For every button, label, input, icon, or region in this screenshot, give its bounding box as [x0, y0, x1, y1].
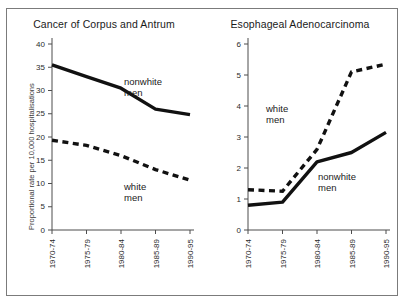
x-tick-label: 1990-95	[186, 238, 195, 268]
series-line-nonwhite-men	[248, 132, 386, 205]
y-tick-label: 3	[237, 133, 242, 142]
series-annotation-line: nonwhite	[124, 76, 162, 87]
x-tick-label: 1980-84	[313, 238, 322, 268]
y-tick-label: 35	[36, 63, 45, 72]
x-tick-label: 1985-89	[348, 238, 357, 268]
x-tick-label: 1970-74	[48, 238, 57, 268]
x-tick-label: 1990-95	[382, 238, 391, 268]
y-tick-label: 5	[237, 71, 242, 80]
series-annotation-line: men	[266, 114, 284, 125]
y-tick-label: 15	[36, 156, 45, 165]
series-line-white-men	[52, 140, 190, 180]
y-tick-label: 5	[41, 202, 46, 211]
chart-panel-left: Cancer of Corpus and Antrum Proportional…	[6, 8, 202, 296]
x-tick-label: 1980-84	[117, 238, 126, 268]
y-tick-label: 10	[36, 179, 45, 188]
y-tick-label: 0	[237, 226, 242, 235]
series-annotation-line: men	[318, 182, 336, 193]
figure-root: Cancer of Corpus and Antrum Proportional…	[0, 0, 404, 304]
x-tick-label: 1970-74	[244, 238, 253, 268]
y-tick-label: 6	[237, 40, 242, 49]
series-line-nonwhite-men	[52, 65, 190, 115]
x-tick-label: 1975-79	[279, 238, 288, 268]
y-tick-label: 40	[36, 40, 45, 49]
y-tick-label: 0	[41, 226, 46, 235]
series-annotation-nonwhite-men: nonwhitemen	[318, 171, 356, 193]
y-tick-label: 20	[36, 133, 45, 142]
series-annotation-line: white	[265, 103, 288, 114]
series-annotation-line: nonwhite	[318, 171, 356, 182]
series-annotation-line: white	[123, 181, 146, 192]
series-line-white-men	[248, 64, 386, 191]
plot-area-left: 05101520253035401970-741975-791980-84198…	[6, 8, 202, 296]
y-tick-label: 4	[237, 102, 242, 111]
series-annotation-line: men	[124, 192, 142, 203]
y-tick-label: 30	[36, 86, 45, 95]
x-tick-label: 1985-89	[152, 238, 161, 268]
y-tick-label: 2	[237, 164, 242, 173]
plot-area-right: 01234561970-741975-791980-841985-891990-…	[202, 8, 398, 296]
y-tick-label: 25	[36, 109, 45, 118]
x-tick-label: 1975-79	[83, 238, 92, 268]
series-annotation-white-men: whitemen	[123, 181, 146, 203]
series-annotation-line: men	[124, 87, 142, 98]
chart-panel-right: Esophageal Adenocarcinoma Proportional r…	[202, 8, 398, 296]
y-tick-label: 1	[237, 195, 242, 204]
series-annotation-white-men: whitemen	[265, 103, 288, 125]
series-annotation-nonwhite-men: nonwhitemen	[124, 76, 162, 98]
